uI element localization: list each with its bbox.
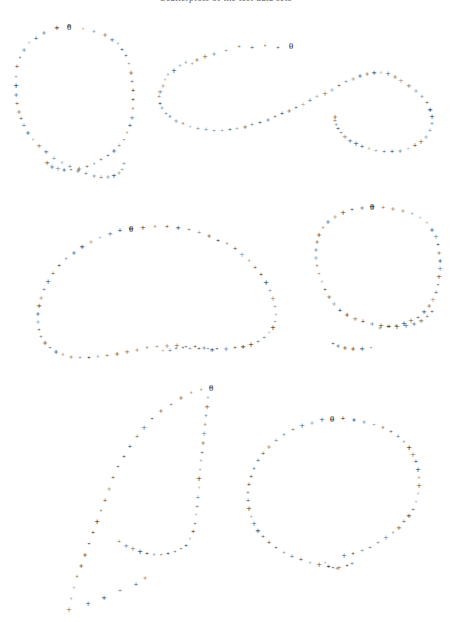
scatter-marker: +	[251, 520, 257, 527]
scatter-marker: +	[261, 451, 266, 457]
scatter-marker: +	[212, 129, 215, 133]
scatter-marker: +	[369, 203, 375, 210]
scatter-marker: +	[262, 335, 266, 340]
scatter-marker: +	[199, 459, 203, 464]
scatter-marker: +	[401, 320, 407, 327]
scatter-marker: +	[248, 341, 254, 348]
scatter-marker: +	[331, 566, 334, 570]
scatter-marker: +	[117, 143, 122, 149]
scatter-marker: +	[406, 83, 412, 90]
scatter-marker: +	[406, 147, 410, 151]
scatter-marker: +	[259, 272, 264, 277]
scatter-marker: +	[308, 561, 312, 565]
scatter-marker: +	[428, 128, 433, 134]
scatter-marker: +	[98, 236, 102, 240]
scatter-marker: +	[313, 247, 318, 254]
scatter-marker: +	[41, 30, 46, 36]
scatter-marker: +	[394, 324, 398, 329]
scatter-marker: +	[427, 107, 433, 114]
scatter-marker: +	[319, 416, 325, 423]
scatter-marker: +	[249, 474, 253, 479]
scatter-marker: +	[216, 238, 220, 243]
scatter-marker: +	[91, 173, 96, 179]
scatter-marker: +	[142, 575, 147, 581]
scatter-marker: +	[99, 158, 103, 163]
scatter-marker: +	[196, 475, 202, 482]
scatter-marker: +	[368, 545, 372, 550]
scatter-marker: +	[291, 428, 295, 433]
scatter-marker: +	[414, 500, 418, 504]
scatter-marker: +	[145, 346, 149, 350]
scatter-marker: +	[96, 354, 100, 359]
scatter-marker: +	[351, 552, 355, 557]
scatter-marker: +	[233, 246, 238, 252]
scatter-marker: +	[397, 148, 402, 154]
scatter-marker: +	[99, 509, 103, 514]
scatter-marker: +	[72, 586, 76, 591]
scatter-marker: +	[383, 535, 389, 542]
scatter-marker: +	[184, 543, 188, 548]
scatter-marker: +	[196, 126, 200, 131]
scatter-marker: +	[201, 430, 207, 437]
scatter-marker: +	[53, 349, 59, 356]
scatter-marker: +	[187, 228, 191, 233]
scatter-marker: +	[88, 239, 93, 245]
scatter-marker: +	[111, 173, 117, 180]
scatter-marker: +	[402, 440, 406, 445]
scatter-marker: +	[206, 347, 209, 351]
scatter-marker: +	[323, 561, 327, 565]
scatter-marker: +	[66, 606, 72, 613]
scatter-marker: +	[280, 111, 285, 116]
scatter-marker: +	[315, 94, 319, 99]
scatter-marker: +	[31, 138, 35, 142]
scatter-marker: +	[250, 45, 255, 51]
scatter-marker: +	[158, 408, 163, 414]
scatter-marker: +	[158, 101, 162, 106]
scatter-marker: +	[178, 395, 183, 401]
scatter-marker: +	[342, 345, 347, 351]
figure-root: Scatterplots of the test data sets +++++…	[0, 0, 452, 622]
scatter-marker: +	[242, 124, 247, 130]
scatter-marker: +	[204, 127, 209, 133]
scatter-marker: +	[76, 166, 82, 173]
scatter-marker: +	[270, 295, 276, 302]
scatter-marker: +	[317, 272, 320, 276]
scatter-marker: +	[206, 233, 211, 239]
scatter-marker: +	[18, 56, 22, 60]
scatter-marker: +	[386, 325, 390, 330]
scatter-marker: +	[391, 531, 395, 535]
scatter-marker: +	[81, 27, 85, 31]
scatter-marker: +	[350, 561, 354, 566]
scatter-marker: +	[276, 46, 280, 51]
scatter-marker: +	[85, 600, 91, 607]
scatter-marker: +	[371, 70, 377, 77]
scatter-marker: +	[413, 88, 418, 94]
scatter-marker: +	[94, 518, 100, 525]
scatter-marker: +	[402, 519, 407, 525]
scatter-marker: +	[410, 212, 414, 216]
scatter-marker: +	[314, 239, 319, 245]
scatter-marker: +	[130, 79, 134, 84]
scatter-marker: +	[398, 78, 404, 85]
scatter-marker: +	[301, 102, 306, 108]
scatter-marker: +	[332, 214, 337, 220]
scatter-marker: +	[194, 513, 198, 517]
scatter-marker: +	[196, 494, 201, 500]
scatter-marker: +	[206, 395, 210, 400]
scatter-marker: +	[209, 386, 213, 391]
scatter-marker: +	[425, 221, 429, 226]
scatter-marker: +	[228, 127, 232, 132]
scatter-marker: +	[145, 551, 149, 556]
contour-index-label: 0	[129, 224, 133, 234]
scatter-marker: +	[352, 316, 358, 323]
scatter-marker: +	[128, 444, 133, 450]
scatter-marker: +	[290, 554, 295, 560]
scatter-marker: +	[250, 123, 254, 128]
scatter-marker: +	[282, 551, 286, 556]
scatter-marker: +	[351, 417, 356, 423]
scatter-marker: +	[141, 424, 147, 431]
scatter-marker: +	[127, 62, 130, 66]
scatter-marker: +	[224, 48, 228, 53]
scatter-marker: +	[92, 29, 96, 34]
scatter-marker: +	[116, 465, 119, 469]
